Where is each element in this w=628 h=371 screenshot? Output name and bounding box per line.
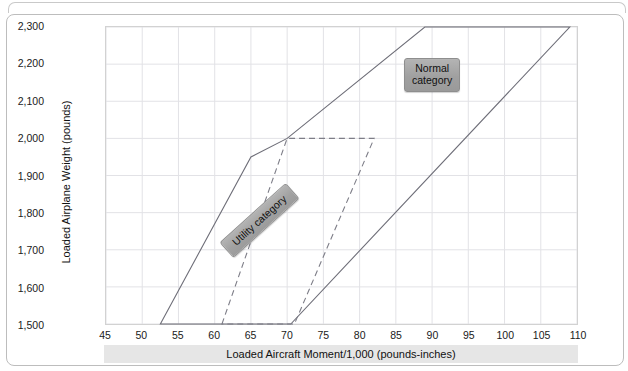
y-tick-label: 1,900: [0, 170, 44, 181]
y-tick-label: 1,800: [0, 208, 44, 219]
x-tick-label: 75: [303, 330, 343, 341]
x-tick-label: 45: [85, 330, 125, 341]
normal-category-envelope: [160, 27, 569, 324]
normal-category-label: Normal category: [404, 58, 460, 92]
x-axis-title: Loaded Aircraft Moment/1,000 (pounds-inc…: [104, 345, 578, 363]
y-tick-label: 2,200: [0, 58, 44, 69]
x-tick-label: 90: [412, 330, 452, 341]
x-tick-label: 70: [267, 330, 307, 341]
x-tick-label: 100: [485, 330, 525, 341]
y-tick-label: 1,700: [0, 245, 44, 256]
y-tick-label: 1,600: [0, 282, 44, 293]
x-tick-label: 65: [231, 330, 271, 341]
x-tick-label: 105: [522, 330, 562, 341]
plot-area: [105, 26, 578, 325]
x-tick-label: 50: [121, 330, 161, 341]
x-tick-label: 110: [558, 330, 598, 341]
y-tick-label: 2,300: [0, 21, 44, 32]
y-axis-title: Loaded Airplane Weight (pounds): [60, 72, 72, 292]
x-tick-label: 80: [340, 330, 380, 341]
x-tick-label: 95: [449, 330, 489, 341]
weight-and-balance-envelope-figure: Loaded Airplane Weight (pounds) 1,5001,6…: [0, 0, 628, 371]
y-tick-label: 2,100: [0, 96, 44, 107]
x-tick-label: 60: [194, 330, 234, 341]
y-tick-label: 1,500: [0, 320, 44, 331]
envelope-series: [106, 27, 577, 324]
y-tick-label: 2,000: [0, 133, 44, 144]
x-tick-label: 55: [158, 330, 198, 341]
x-tick-label: 85: [376, 330, 416, 341]
